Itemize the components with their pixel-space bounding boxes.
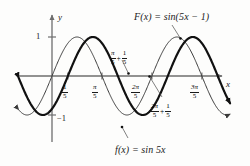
fraction: 1 5	[62, 84, 68, 100]
leader-line	[150, 77, 163, 98]
x-tick-label-1-over-5: 1 5	[62, 82, 68, 100]
y-tick-label-minus-1: −1	[57, 114, 66, 123]
fraction-b: 1 5	[165, 103, 171, 119]
figure-container: y x 1 −1 1 5 π 5 2π 5 3π 5 π 5 + 1	[0, 0, 250, 166]
fraction: 3π 5	[190, 84, 199, 100]
leader-dot	[179, 37, 182, 40]
x-axis-label: x	[226, 80, 230, 89]
x-tick-label-3pi-over-5: 3π 5	[190, 82, 199, 100]
y-axis-label: y	[58, 13, 62, 22]
y-tick-label-1: 1	[36, 32, 40, 41]
annotation-pi-over-5-plus-1-over-5: π 5 + 1 5	[110, 48, 127, 66]
fraction: 2π 5	[131, 84, 140, 100]
function-plot	[0, 0, 250, 166]
annotation-2pi-over-5-plus-1-over-5: 2π 5 + 1 5	[150, 101, 171, 119]
fraction-b: 1 5	[122, 50, 128, 66]
leader-line	[122, 127, 128, 138]
leader-line	[172, 25, 181, 39]
curve-label-F: F(x) = sin(5x − 1)	[134, 12, 209, 22]
fraction: π 5	[92, 84, 98, 100]
leader-dot	[127, 72, 130, 75]
leader-dot	[121, 126, 124, 129]
curve-label-f: f(x) = sin 5x	[115, 145, 166, 155]
x-tick-label-2pi-over-5: 2π 5	[131, 82, 140, 100]
leader-dot	[148, 75, 151, 78]
x-tick-label-pi-over-5: π 5	[92, 82, 98, 100]
fraction-a: 2π 5	[150, 103, 159, 119]
